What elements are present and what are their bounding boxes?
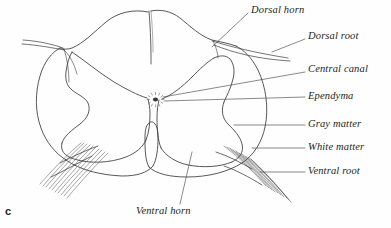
label-ependyma: Ependyma: [308, 91, 354, 102]
dorsal-root-right: [212, 41, 290, 61]
ventral-root-right: [216, 146, 291, 202]
dorsal-root-left: [22, 40, 77, 82]
label-central-canal: Central canal: [308, 64, 368, 75]
central-canal-dot: [153, 97, 158, 101]
label-dorsal-root: Dorsal root: [308, 31, 359, 42]
leader-ependyma: [164, 97, 305, 101]
leader-ventral-horn: [180, 152, 192, 204]
leader-dorsal-root: [272, 39, 305, 52]
label-gray-matter: Gray matter: [308, 119, 361, 130]
ventral-root-left: [40, 143, 108, 198]
spinal-cord-figure: Dorsal horn Dorsal root Central canal Ep…: [0, 0, 391, 228]
label-white-matter: White matter: [308, 142, 364, 153]
leader-dorsal-horn: [212, 13, 248, 47]
leader-lines: [163, 13, 305, 204]
panel-letter: c: [5, 206, 11, 217]
label-ventral-root: Ventral root: [308, 166, 360, 177]
label-dorsal-horn: Dorsal horn: [251, 5, 304, 16]
label-ventral-horn: Ventral horn: [136, 206, 191, 217]
